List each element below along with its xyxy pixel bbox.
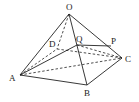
- label-B: B: [84, 88, 90, 98]
- edge-OD: [57, 14, 69, 49]
- edge-BC: [87, 58, 122, 85]
- label-Q: Q: [76, 34, 83, 44]
- label-D: D: [49, 39, 56, 49]
- label-O: O: [66, 2, 73, 12]
- label-P: P: [111, 36, 116, 46]
- edge-AB: [20, 75, 87, 85]
- edge-OB: [69, 14, 87, 85]
- edge-OA: [20, 14, 69, 75]
- pyramid-diagram: O A B C D Q P: [0, 0, 139, 102]
- label-C: C: [125, 54, 131, 64]
- edge-AD: [20, 49, 57, 75]
- label-A: A: [9, 73, 16, 83]
- edge-QC: [77, 45, 122, 58]
